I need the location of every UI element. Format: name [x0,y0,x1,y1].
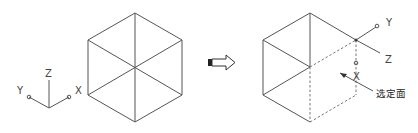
right-y-label: Y [385,17,393,28]
ucs-face-diagram: Z Y X Y Z X [0,0,418,133]
selected-face-label: 选定面 [376,88,406,99]
left-y-label: Y [16,85,24,96]
transition-arrow-icon [208,55,235,70]
right-cube [263,13,380,122]
left-ucs-icon: Z Y X [16,68,82,108]
left-cube [88,13,182,122]
left-z-label: Z [45,68,52,79]
right-z-label: Z [385,54,392,65]
left-x-label: X [75,85,82,96]
selected-face-callout: 选定面 [340,73,406,99]
